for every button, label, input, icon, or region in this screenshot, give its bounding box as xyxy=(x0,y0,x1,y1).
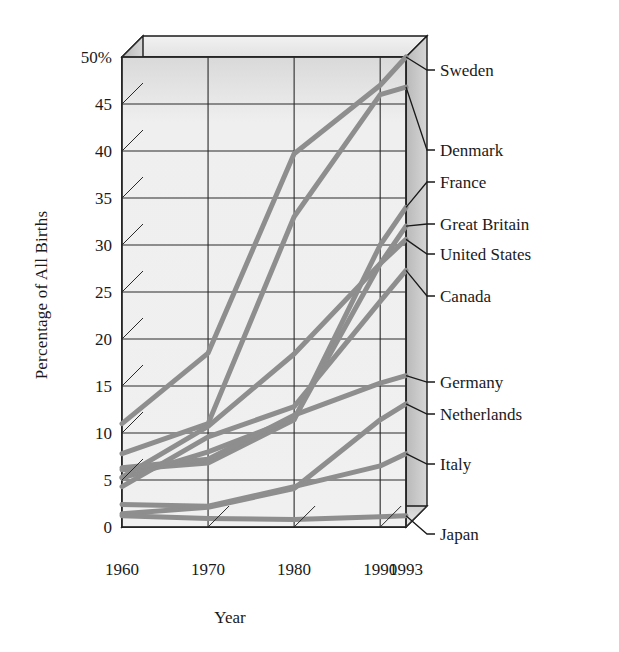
series-label-france: France xyxy=(440,174,486,191)
series-label-italy: Italy xyxy=(440,456,471,473)
chart-root: Percentage of All Births 051015202530354… xyxy=(0,0,619,652)
x-tick-label: 1970 xyxy=(191,560,225,580)
series-label-netherlands: Netherlands xyxy=(440,406,522,423)
x-axis-title: Year xyxy=(0,608,460,628)
x-tick-label: 1980 xyxy=(277,560,311,580)
x-tick-label: 1993 xyxy=(389,560,423,580)
series-label-united-states: United States xyxy=(440,246,531,263)
x-tick-label: 1960 xyxy=(105,560,139,580)
series-label-great-britain: Great Britain xyxy=(440,216,529,233)
series-label-japan: Japan xyxy=(440,526,479,543)
box-right-face xyxy=(406,36,427,527)
series-label-canada: Canada xyxy=(440,288,491,305)
plot-area xyxy=(0,0,619,652)
series-label-sweden: Sweden xyxy=(440,62,494,79)
series-label-denmark: Denmark xyxy=(440,142,503,159)
box-top-face xyxy=(122,36,427,57)
series-label-germany: Germany xyxy=(440,374,503,391)
